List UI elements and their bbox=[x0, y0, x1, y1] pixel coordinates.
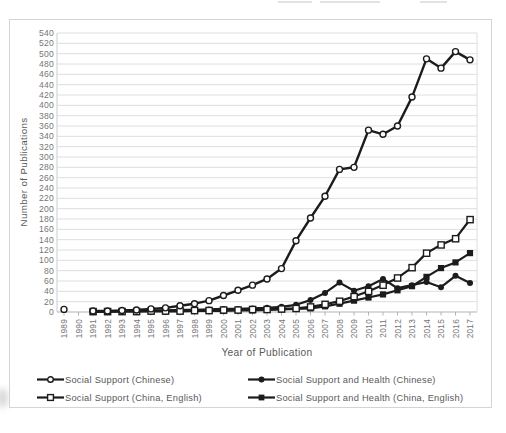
data-point-marker bbox=[192, 301, 198, 307]
data-point-marker bbox=[250, 282, 256, 288]
data-point-marker bbox=[293, 305, 299, 311]
svg-text:2002: 2002 bbox=[248, 319, 258, 338]
svg-text:1998: 1998 bbox=[190, 319, 200, 338]
svg-text:2017: 2017 bbox=[465, 319, 475, 338]
data-point-marker bbox=[351, 164, 357, 170]
svg-text:400: 400 bbox=[39, 100, 54, 110]
svg-text:2016: 2016 bbox=[451, 319, 461, 338]
data-point-marker bbox=[322, 290, 328, 296]
svg-text:2013: 2013 bbox=[407, 319, 417, 338]
data-point-marker bbox=[235, 307, 241, 313]
data-point-marker bbox=[279, 266, 285, 272]
svg-text:2012: 2012 bbox=[393, 319, 403, 338]
data-point-marker bbox=[105, 308, 111, 314]
data-point-marker bbox=[279, 306, 285, 312]
svg-text:2008: 2008 bbox=[335, 319, 345, 338]
data-point-marker bbox=[467, 57, 473, 63]
data-point-marker bbox=[221, 292, 227, 298]
svg-text:1997: 1997 bbox=[175, 319, 185, 338]
data-point-marker bbox=[438, 65, 444, 71]
svg-text:420: 420 bbox=[39, 90, 54, 100]
svg-text:1999: 1999 bbox=[204, 319, 214, 338]
svg-text:2003: 2003 bbox=[262, 319, 272, 338]
data-point-marker bbox=[467, 280, 473, 286]
svg-text:1993: 1993 bbox=[117, 319, 127, 338]
data-point-marker bbox=[365, 294, 371, 300]
data-point-marker bbox=[351, 294, 357, 300]
data-point-marker bbox=[337, 166, 343, 172]
data-point-marker bbox=[453, 236, 459, 242]
data-point-marker bbox=[148, 306, 154, 312]
data-point-marker bbox=[206, 307, 212, 313]
svg-text:1991: 1991 bbox=[88, 319, 98, 338]
data-point-marker bbox=[380, 131, 386, 137]
svg-text:480: 480 bbox=[39, 59, 54, 69]
data-point-marker bbox=[337, 280, 343, 286]
data-point-marker bbox=[119, 307, 125, 313]
data-point-marker bbox=[337, 298, 343, 304]
svg-text:520: 520 bbox=[39, 38, 54, 48]
legend-item-social-support-health-china-english: Social Support and Health (China, Englis… bbox=[248, 390, 463, 405]
data-point-marker bbox=[206, 298, 212, 304]
data-point-marker bbox=[235, 287, 241, 293]
data-point-marker bbox=[322, 193, 328, 199]
series-social-support-chinese bbox=[61, 49, 473, 314]
svg-text:1994: 1994 bbox=[132, 319, 142, 338]
legend-label: Social Support (China, English) bbox=[65, 393, 202, 403]
svg-text:2015: 2015 bbox=[436, 319, 446, 338]
svg-text:340: 340 bbox=[39, 131, 54, 141]
data-point-marker bbox=[409, 282, 415, 288]
svg-text:200: 200 bbox=[39, 204, 54, 214]
legend-label: Social Support and Health (China, Englis… bbox=[276, 393, 463, 403]
svg-text:440: 440 bbox=[39, 80, 54, 90]
data-point-marker bbox=[453, 273, 459, 279]
data-point-marker bbox=[467, 250, 473, 256]
svg-text:500: 500 bbox=[39, 49, 54, 59]
data-point-marker bbox=[380, 291, 386, 297]
legend-item-social-support-health-chinese: Social Support and Health (Chinese) bbox=[248, 372, 436, 387]
y-axis-title: Number of Publications bbox=[18, 118, 29, 227]
svg-text:280: 280 bbox=[39, 162, 54, 172]
data-point-marker bbox=[452, 259, 458, 265]
svg-text:1990: 1990 bbox=[74, 319, 84, 338]
svg-text:80: 80 bbox=[44, 266, 54, 276]
svg-text:2009: 2009 bbox=[349, 319, 359, 338]
data-point-marker bbox=[308, 304, 314, 310]
legend-item-social-support-chinese: Social Support (Chinese) bbox=[37, 372, 174, 387]
svg-text:320: 320 bbox=[39, 142, 54, 152]
svg-text:260: 260 bbox=[39, 173, 54, 183]
svg-text:140: 140 bbox=[39, 235, 54, 245]
data-point-marker bbox=[322, 301, 328, 307]
svg-text:2004: 2004 bbox=[277, 319, 287, 338]
svg-text:2014: 2014 bbox=[422, 319, 432, 338]
data-point-marker bbox=[221, 307, 227, 313]
data-point-marker bbox=[438, 242, 444, 248]
data-point-marker bbox=[250, 306, 256, 312]
data-point-marker bbox=[90, 308, 96, 314]
svg-text:1995: 1995 bbox=[146, 319, 156, 338]
data-point-marker bbox=[293, 238, 299, 244]
data-point-marker bbox=[395, 123, 401, 129]
svg-text:1996: 1996 bbox=[161, 319, 171, 338]
data-point-marker bbox=[177, 303, 183, 309]
svg-text:1989: 1989 bbox=[59, 319, 69, 338]
svg-text:180: 180 bbox=[39, 214, 54, 224]
data-point-marker bbox=[467, 217, 473, 223]
svg-text:20: 20 bbox=[44, 297, 54, 307]
x-axis-title: Year of Publication bbox=[221, 347, 312, 358]
data-point-marker bbox=[424, 56, 430, 62]
data-point-marker bbox=[395, 285, 401, 291]
data-point-marker bbox=[163, 305, 169, 311]
svg-text:40: 40 bbox=[44, 286, 54, 296]
svg-text:2010: 2010 bbox=[364, 319, 374, 338]
data-point-marker bbox=[366, 127, 372, 133]
data-point-marker bbox=[264, 276, 270, 282]
x-tick-labels: 1989199019911992199319941995199619971998… bbox=[59, 319, 475, 338]
data-point-marker bbox=[61, 306, 67, 312]
data-point-marker bbox=[308, 297, 314, 303]
svg-text:160: 160 bbox=[39, 224, 54, 234]
svg-text:2007: 2007 bbox=[320, 319, 330, 338]
data-point-marker bbox=[409, 94, 415, 100]
svg-text:460: 460 bbox=[39, 69, 54, 79]
legend-filled-circle-marker-icon bbox=[248, 375, 275, 384]
